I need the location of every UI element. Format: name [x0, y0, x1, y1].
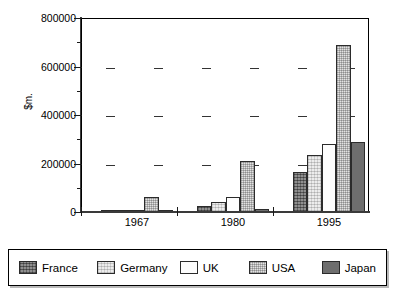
- y-axis-major-tick: [74, 18, 82, 19]
- bar-chart-figure: $m. 0200000400000600000800000 1967198019…: [0, 0, 395, 297]
- france-swatch: [19, 261, 37, 274]
- uk-swatch: [180, 261, 198, 274]
- y-axis-minor-tick: [77, 139, 82, 140]
- x-axis-tick: [273, 207, 274, 216]
- y-axis-tick-label: 600000: [20, 62, 76, 72]
- y-axis-major-tick: [74, 67, 82, 68]
- y-axis-tick-label: 200000: [20, 159, 76, 169]
- legend-label: USA: [272, 262, 296, 274]
- bar-uk-1995: [322, 144, 337, 212]
- y-axis-tick-label: 0: [20, 207, 76, 217]
- bar-uk-1980: [226, 197, 241, 212]
- y-axis-tick-labels: 0200000400000600000800000: [20, 0, 76, 240]
- legend-item-germany[interactable]: Germany: [97, 261, 167, 274]
- y-axis-minor-tick: [77, 42, 82, 43]
- y-axis-major-tick: [74, 164, 82, 165]
- bar-japan-1995: [351, 142, 366, 212]
- y-axis-minor-tick: [77, 188, 82, 189]
- usa-swatch: [249, 261, 267, 274]
- legend-item-usa[interactable]: USA: [249, 261, 296, 274]
- bar-usa-1995: [336, 45, 351, 212]
- bar-france-1995: [293, 172, 308, 212]
- legend-item-japan[interactable]: Japan: [322, 261, 376, 274]
- chart-plot-area: $m. 0200000400000600000800000 1967198019…: [0, 0, 395, 240]
- x-axis-spine: [80, 211, 370, 213]
- x-axis-tick-label-1980: 1980: [193, 216, 273, 228]
- legend-items-container: FranceGermanyUKUSAJapan: [9, 250, 386, 285]
- y-axis-minor-tick: [77, 91, 82, 92]
- x-axis-tick-label-1995: 1995: [289, 216, 369, 228]
- germany-swatch: [97, 261, 115, 274]
- legend-label: UK: [203, 262, 219, 274]
- legend-label: Japan: [345, 262, 376, 274]
- legend-item-uk[interactable]: UK: [180, 261, 219, 274]
- y-axis-tick-label: 800000: [20, 13, 76, 23]
- legend-label: France: [42, 262, 78, 274]
- bar-usa-1980: [240, 161, 255, 212]
- japan-swatch: [322, 261, 340, 274]
- y-axis-tick-label: 400000: [20, 110, 76, 120]
- bar-usa-1967: [144, 197, 159, 212]
- x-axis-tick: [81, 207, 82, 216]
- x-axis-tick: [177, 207, 178, 216]
- bar-series-container: [81, 18, 369, 212]
- legend-label: Germany: [120, 262, 167, 274]
- legend-item-france[interactable]: France: [19, 261, 78, 274]
- x-axis-tick-label-1967: 1967: [97, 216, 177, 228]
- bar-germany-1995: [307, 155, 322, 212]
- chart-legend: FranceGermanyUKUSAJapan: [8, 249, 387, 286]
- y-axis-major-tick: [74, 115, 82, 116]
